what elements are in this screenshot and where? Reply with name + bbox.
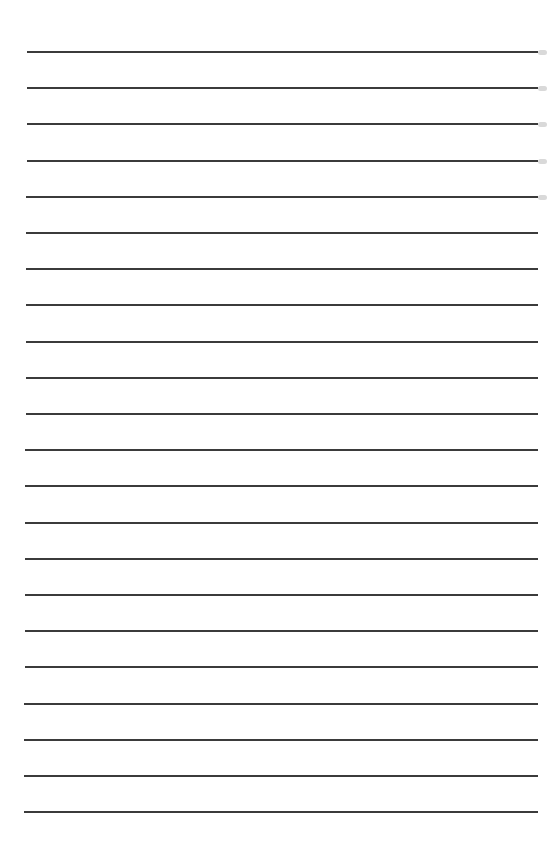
ruled-line (25, 666, 538, 668)
ruled-line (24, 775, 538, 777)
ruled-line (26, 268, 538, 270)
ruled-line (26, 413, 538, 415)
ruled-line (24, 739, 538, 741)
ruled-line (25, 558, 538, 560)
ruled-line (25, 449, 538, 451)
ruled-line (27, 123, 538, 125)
ruled-line (27, 160, 538, 162)
edge-smudge (538, 159, 547, 164)
edge-smudge (538, 122, 547, 127)
ruled-line (24, 703, 538, 705)
edge-smudge (538, 86, 547, 91)
ruled-line (24, 811, 538, 813)
ruled-line (25, 594, 538, 596)
ruled-line (25, 485, 538, 487)
ruled-line (25, 522, 538, 524)
ruled-line (27, 87, 538, 89)
ruled-line (26, 304, 538, 306)
ruled-line (25, 630, 538, 632)
ruled-line (26, 232, 538, 234)
ruled-line (26, 196, 538, 198)
ruled-line (27, 51, 538, 53)
ruled-line (26, 341, 538, 343)
ruled-line (26, 377, 538, 379)
edge-smudge (538, 50, 547, 55)
edge-smudge (538, 195, 547, 200)
